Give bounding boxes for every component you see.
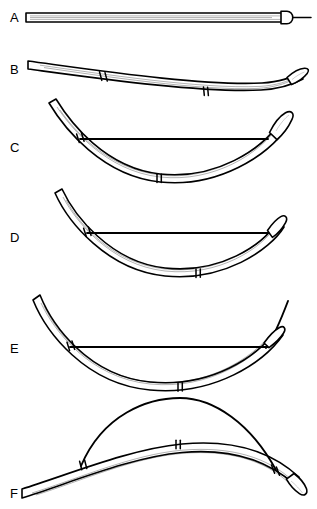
panel-label-d: D bbox=[10, 230, 20, 245]
figure-root: A B C bbox=[0, 0, 317, 509]
panel-a: A bbox=[10, 10, 311, 25]
panel-label-e: E bbox=[10, 341, 19, 356]
catheter-deflection-figure: A B C bbox=[0, 0, 317, 509]
panel-b-band-2b bbox=[208, 87, 209, 95]
panel-label-b: B bbox=[10, 62, 19, 77]
figure-background bbox=[0, 0, 317, 509]
panel-b-band-2a bbox=[204, 87, 205, 95]
panel-a-tip-cap bbox=[281, 11, 293, 24]
panel-label-a: A bbox=[10, 10, 19, 25]
panel-label-c: C bbox=[10, 140, 20, 155]
panel-label-f: F bbox=[10, 486, 18, 501]
